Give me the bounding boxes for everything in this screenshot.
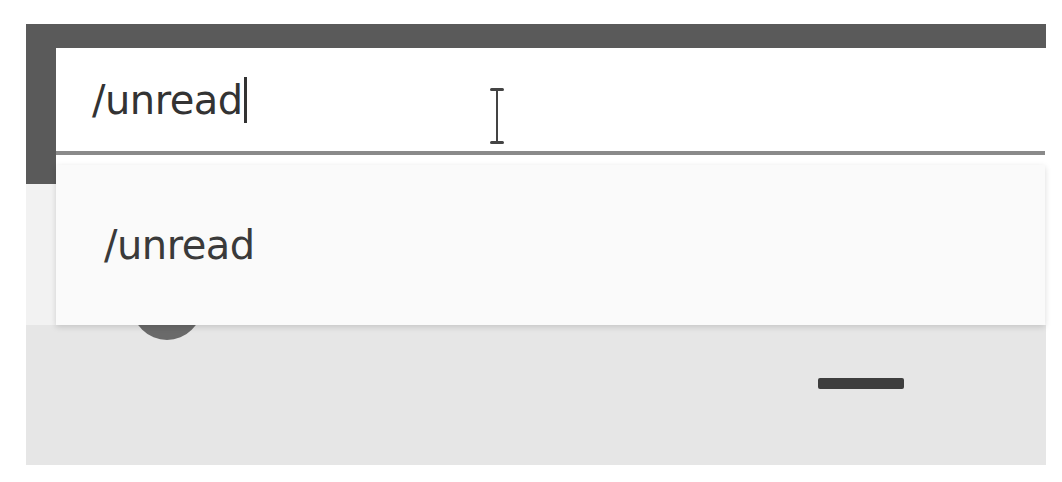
search-input-value: /unread xyxy=(92,77,243,123)
minimize-icon[interactable] xyxy=(818,378,904,389)
suggestion-dropdown: /unread xyxy=(56,165,1045,325)
text-cursor-icon xyxy=(490,88,504,144)
window-frame-left xyxy=(26,24,56,184)
suggestion-item[interactable]: /unread xyxy=(104,222,255,268)
text-caret xyxy=(244,77,247,123)
suggestion-item-label: /unread xyxy=(104,222,255,268)
window-frame-top xyxy=(26,24,1046,48)
search-input[interactable]: /unread xyxy=(56,48,1045,155)
